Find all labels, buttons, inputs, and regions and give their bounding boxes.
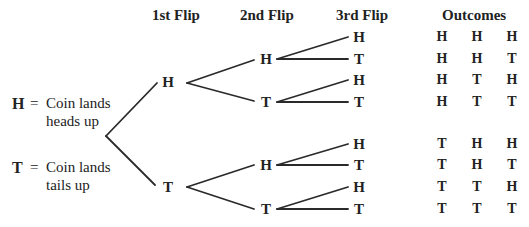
- outcome-cell: H: [507, 73, 518, 87]
- legend-tails-line2: tails up: [46, 176, 90, 195]
- outcome-cell: T: [437, 158, 446, 172]
- outcome-cell: H: [507, 30, 518, 44]
- header-third-flip: 3rd Flip: [336, 7, 388, 24]
- outcome-cell: H: [437, 73, 448, 87]
- node-second-ht: T: [261, 95, 271, 110]
- outcome-cell: H: [472, 137, 483, 151]
- outcome-cell: H: [472, 30, 483, 44]
- node-first-heads: H: [162, 75, 174, 90]
- outcome-cell: H: [507, 180, 518, 194]
- node-second-hh: H: [260, 52, 272, 67]
- outcome-cell: T: [437, 180, 446, 194]
- node-third-8: T: [354, 202, 364, 217]
- node-first-tails: T: [163, 180, 173, 195]
- outcome-cell: H: [472, 158, 483, 172]
- node-third-6: T: [354, 158, 364, 173]
- outcome-cell: T: [507, 95, 516, 109]
- outcome-cell: H: [507, 137, 518, 151]
- outcome-cell: H: [437, 95, 448, 109]
- legend-tails-equals: =: [30, 159, 38, 176]
- outcome-cell: T: [472, 95, 481, 109]
- legend-heads-equals: =: [30, 95, 38, 112]
- legend-heads-symbol: H: [12, 95, 24, 113]
- outcome-cell: T: [507, 158, 516, 172]
- outcome-cell: H: [437, 30, 448, 44]
- outcome-cell: T: [507, 52, 516, 66]
- node-third-7: H: [353, 180, 365, 195]
- outcome-cell: T: [437, 202, 446, 216]
- node-third-4: T: [354, 95, 364, 110]
- header-outcomes: Outcomes: [442, 7, 506, 24]
- outcome-cell: T: [437, 137, 446, 151]
- outcome-cell: H: [472, 52, 483, 66]
- node-second-tt: T: [261, 202, 271, 217]
- node-third-3: H: [353, 73, 365, 88]
- legend-tails-symbol: T: [12, 159, 23, 177]
- outcome-cell: T: [472, 202, 481, 216]
- outcome-cell: T: [472, 73, 481, 87]
- header-second-flip: 2nd Flip: [240, 7, 294, 24]
- outcome-cell: T: [507, 202, 516, 216]
- node-third-5: H: [353, 137, 365, 152]
- legend-heads-line2: heads up: [46, 112, 99, 131]
- legend-tails-line1: Coin lands: [46, 158, 111, 177]
- outcome-cell: H: [437, 52, 448, 66]
- header-first-flip: 1st Flip: [152, 7, 200, 24]
- node-third-2: T: [354, 52, 364, 67]
- node-third-1: H: [353, 30, 365, 45]
- legend-heads-line1: Coin lands: [46, 94, 111, 113]
- outcome-cell: T: [472, 180, 481, 194]
- node-second-th: H: [260, 158, 272, 173]
